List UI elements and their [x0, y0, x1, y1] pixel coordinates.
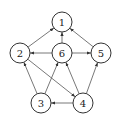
node-6: 6	[52, 43, 72, 63]
edge-3-to-6	[45, 62, 58, 94]
directed-graph: 126534	[0, 0, 120, 126]
node-label: 5	[98, 48, 104, 59]
edge-arrow-line	[45, 62, 58, 94]
node-label: 2	[17, 48, 23, 59]
node-2: 2	[10, 43, 30, 63]
node-1: 1	[52, 12, 72, 32]
node-5: 5	[91, 43, 111, 63]
node-label: 1	[59, 17, 65, 28]
edge-arrow-line	[24, 62, 37, 94]
node-label: 3	[38, 98, 44, 109]
edge-4-to-6	[66, 62, 79, 94]
node-label: 6	[59, 48, 65, 59]
edge-arrow-line	[86, 62, 97, 93]
node-4: 4	[73, 93, 93, 113]
edge-2-to-1	[28, 28, 54, 47]
edge-4-to-5	[86, 62, 97, 93]
nodes-layer: 126534	[10, 12, 111, 113]
edge-arrow-line	[28, 28, 54, 47]
edge-3-to-2	[24, 62, 37, 94]
edge-5-to-1	[70, 28, 93, 47]
node-label: 4	[80, 98, 86, 109]
edges-layer	[24, 28, 98, 103]
edge-arrow-line	[66, 62, 79, 94]
node-3: 3	[31, 93, 51, 113]
edge-arrow-line	[70, 28, 93, 47]
